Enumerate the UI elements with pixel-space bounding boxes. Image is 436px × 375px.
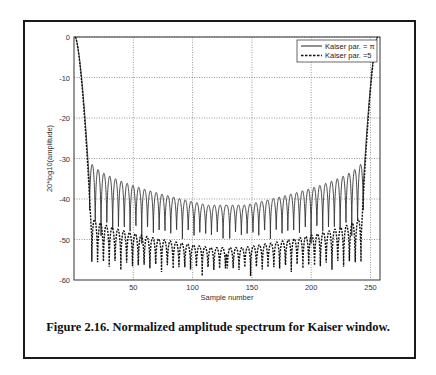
figure-caption: Figure 2.16. Normalized amplitude spectr…: [0, 320, 436, 335]
y-tick-label: 0: [66, 33, 70, 42]
legend-entry-kaiser-5: Kaiser par. =5: [325, 51, 372, 60]
series-kaiser-pi: [75, 37, 377, 244]
x-tick-label: 150: [246, 283, 259, 292]
chart: 501001502002500-10-20-30-40-50-60 Sample…: [0, 0, 436, 375]
curves: [75, 37, 377, 276]
x-tick-label: 100: [186, 283, 199, 292]
legend-entry-kaiser-pi: Kaiser par. = π: [325, 42, 375, 51]
legend: Kaiser par. = π Kaiser par. =5: [297, 40, 377, 62]
x-axis-label: Sample number: [201, 293, 254, 302]
y-tick-label: -50: [59, 236, 70, 245]
x-tick-label: 50: [129, 283, 137, 292]
y-tick-label: -20: [59, 114, 70, 123]
y-tick-label: -30: [59, 155, 70, 164]
y-axis-label: 20*log10(amplitude): [45, 124, 54, 192]
x-tick-label: 200: [305, 283, 318, 292]
y-tick-label: -60: [59, 276, 70, 285]
grid: [74, 37, 380, 280]
y-tick-label: -40: [59, 195, 70, 204]
x-tick-label: 250: [364, 283, 377, 292]
y-tick-label: -10: [59, 74, 70, 83]
series-kaiser-5: [75, 37, 377, 276]
